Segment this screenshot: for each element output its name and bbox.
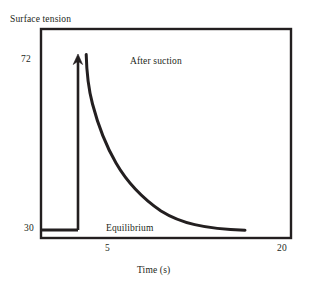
x-tick-label-5: 5: [105, 244, 110, 254]
annotation-equilibrium: Equilibrium: [106, 224, 154, 234]
y-tick-label-30: 30: [24, 224, 34, 234]
x-axis-label: Time (s): [137, 266, 170, 276]
chart-background: [0, 0, 312, 291]
y-tick-label-72: 72: [21, 55, 31, 65]
x-tick-label-20: 20: [277, 244, 287, 254]
annotation-after-suction: After suction: [130, 57, 182, 67]
y-axis-label: Surface tension: [10, 15, 71, 25]
surface-tension-vs-time-chart: [0, 0, 312, 291]
